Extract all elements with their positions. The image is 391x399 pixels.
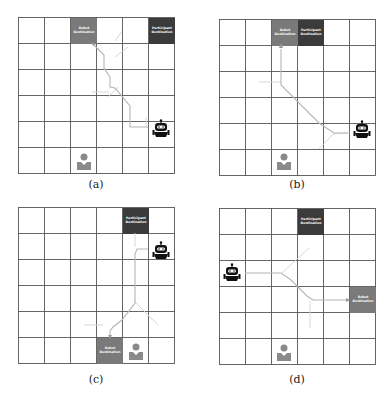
robot-icon [152,119,170,139]
caption-a: (a) [66,178,126,191]
robot-icon [223,263,241,283]
caption-c: (c) [66,373,126,386]
robot-destination: Robot Destination [97,338,123,364]
participant-icon [128,343,144,361]
participant-destination: Participant Destination [149,18,175,44]
participant-destination: Participant Destination [123,208,149,234]
robot-icon [152,241,170,261]
grid-6x6: Participant Destination Robot Destinatio… [18,207,175,364]
participant-icon [276,344,292,362]
grid-6x6: Participant Destination Robot Destinatio… [219,208,376,365]
grid-6x6: Robot Destination Participant Destinatio… [219,19,376,176]
participant-icon [276,153,292,171]
robot-destination: Robot Destination [350,287,376,313]
robot-destination: Robot Destination [71,18,97,44]
caption-b: (b) [267,178,327,191]
robot-destination: Robot Destination [272,20,298,46]
grid-6x6: Robot Destination Participant Destinatio… [18,17,175,174]
robot-icon [353,120,371,140]
participant-icon [76,153,92,171]
caption-d: (d) [267,373,327,386]
participant-destination: Participant Destination [298,209,324,235]
participant-destination: Participant Destination [298,20,324,46]
